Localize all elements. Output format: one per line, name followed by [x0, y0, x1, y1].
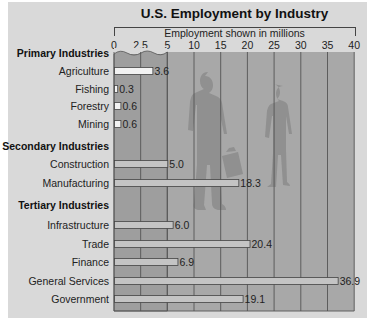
category-label: Forestry	[70, 100, 109, 112]
bar	[115, 86, 118, 93]
bar	[115, 121, 121, 128]
bar	[115, 259, 178, 266]
value-label: 0.3	[119, 83, 134, 95]
category-label: General Services	[28, 275, 109, 287]
value-label: 3.6	[154, 65, 169, 77]
bar	[115, 180, 239, 187]
group-label: Primary Industries	[17, 47, 109, 59]
bar	[115, 161, 168, 168]
value-label: 20.4	[252, 238, 272, 250]
category-label: Mining	[78, 118, 109, 130]
bar	[115, 103, 121, 110]
bar	[115, 296, 244, 303]
group-label: Secondary Industries	[2, 140, 109, 152]
category-label: Trade	[82, 238, 109, 250]
value-label: 6.9	[179, 256, 194, 268]
bar	[115, 68, 153, 75]
bar	[115, 222, 174, 229]
value-label: 0.6	[122, 100, 137, 112]
group-label: Tertiary Industries	[18, 199, 109, 211]
value-label: 6.0	[175, 219, 190, 231]
category-label: Construction	[50, 158, 109, 170]
category-label: Agriculture	[59, 65, 109, 77]
value-label: 18.3	[240, 177, 260, 189]
value-label: 19.1	[245, 293, 265, 305]
value-label: 0.6	[122, 118, 137, 130]
category-label: Fishing	[75, 83, 109, 95]
category-label: Finance	[72, 256, 109, 268]
category-label: Government	[51, 293, 109, 305]
bar	[115, 241, 251, 248]
value-label: 36.9	[340, 275, 360, 287]
category-label: Manufacturing	[42, 177, 109, 189]
bar	[115, 278, 339, 285]
value-label: 5.0	[169, 158, 184, 170]
category-label: Infrastructure	[47, 219, 109, 231]
